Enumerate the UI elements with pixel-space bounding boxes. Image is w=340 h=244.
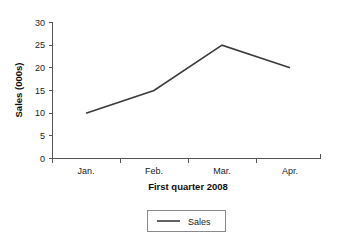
y-axis-title: Sales (000s) — [13, 63, 24, 118]
series-line-sales — [86, 45, 290, 113]
y-tick-label-5: 5 — [40, 131, 45, 141]
x-tick-label-feb: Feb. — [145, 166, 163, 176]
y-tick-label-15: 15 — [35, 86, 45, 96]
y-tick-label-25: 25 — [35, 40, 45, 50]
x-axis-title: First quarter 2008 — [148, 181, 228, 192]
chart-canvas: 0 5 10 15 20 25 30 Jan. Feb. Mar. Apr. F… — [0, 0, 340, 244]
legend-label-sales: Sales — [188, 217, 211, 227]
y-tick-label-0: 0 — [40, 154, 45, 164]
x-tick-label-jan: Jan. — [77, 166, 94, 176]
y-tick-label-10: 10 — [35, 108, 45, 118]
x-tick-label-apr: Apr. — [282, 166, 298, 176]
line-chart: 0 5 10 15 20 25 30 Jan. Feb. Mar. Apr. F… — [0, 0, 340, 244]
y-tick-label-30: 30 — [35, 18, 45, 28]
y-tick-label-20: 20 — [35, 63, 45, 73]
x-tick-label-mar: Mar. — [213, 166, 231, 176]
